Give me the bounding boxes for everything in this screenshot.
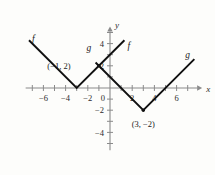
curve-label-f: f: [32, 34, 36, 44]
point-marker: [97, 64, 100, 67]
axes-group: [26, 26, 202, 150]
x-tick-label: −4: [61, 93, 71, 103]
x-tick-label: −2: [83, 93, 92, 103]
curve-label-f: f: [128, 41, 132, 51]
graph-figure: −6−4−20246−4−224 ffgg (−1, 2)(3, −2) x y: [0, 0, 215, 175]
axis-names-group: x y: [114, 20, 210, 93]
x-axis-label: x: [205, 84, 210, 94]
x-tick-label: −6: [39, 93, 48, 103]
coordinate-plane-svg: −6−4−20246−4−224 ffgg (−1, 2)(3, −2) x y: [0, 0, 215, 175]
curve-labels-group: ffgg: [32, 34, 190, 60]
x-tick-label: 0: [101, 93, 105, 103]
x-tick-label: 6: [174, 93, 178, 103]
point-label: (−1, 2): [47, 61, 70, 71]
point-marker: [142, 109, 145, 112]
x-axis-arrow-icon: [197, 85, 202, 90]
curve-label-g: g: [87, 43, 92, 53]
y-tick-label: −4: [95, 128, 105, 138]
point-label: (3, −2): [132, 119, 155, 129]
y-tick-label: 4: [100, 39, 105, 49]
y-axis-arrow-icon: [107, 26, 112, 31]
curves-group: [29, 40, 194, 110]
curve-label-g: g: [185, 50, 190, 60]
y-axis-label: y: [114, 20, 119, 30]
y-tick-label: −2: [95, 105, 104, 115]
